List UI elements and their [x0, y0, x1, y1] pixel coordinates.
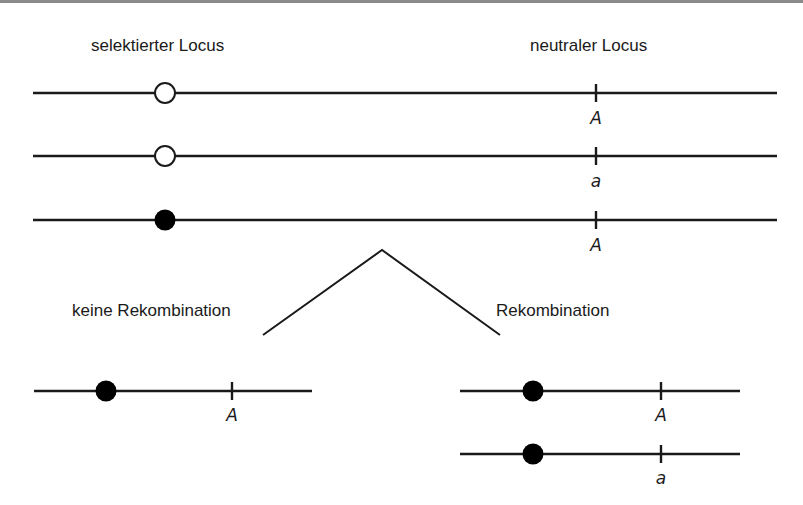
- open-allele-circle-icon: [155, 146, 175, 166]
- chromosome-recombination-1: A: [460, 381, 740, 426]
- chromosome-recombination-2: a: [460, 444, 740, 489]
- no-recombination-label: keine Rekombination: [72, 301, 231, 320]
- chromosome-top-1: A: [33, 83, 777, 128]
- neutral-allele-label: A: [654, 405, 667, 425]
- recombination-label: Rekombination: [496, 301, 609, 320]
- chromosome-no-recombination: A: [34, 381, 312, 426]
- selected-locus-label: selektierter Locus: [91, 36, 224, 55]
- open-allele-circle-icon: [155, 83, 175, 103]
- filled-allele-circle-icon: [523, 444, 544, 465]
- neutral-locus-label: neutraler Locus: [530, 36, 647, 55]
- neutral-allele-label: A: [589, 108, 602, 128]
- filled-allele-circle-icon: [155, 210, 176, 231]
- neutral-allele-label: A: [589, 235, 602, 255]
- chromosome-top-3: A: [33, 210, 777, 256]
- chromosome-top-2: a: [33, 146, 777, 191]
- neutral-allele-label: a: [656, 468, 666, 488]
- filled-allele-circle-icon: [523, 381, 544, 402]
- filled-allele-circle-icon: [96, 381, 117, 402]
- neutral-allele-label: a: [591, 171, 601, 191]
- genetic-hitchhiking-diagram: selektierter Locus neutraler Locus A a A…: [0, 0, 803, 505]
- neutral-allele-label: A: [225, 405, 238, 425]
- branch-lines: [263, 250, 500, 335]
